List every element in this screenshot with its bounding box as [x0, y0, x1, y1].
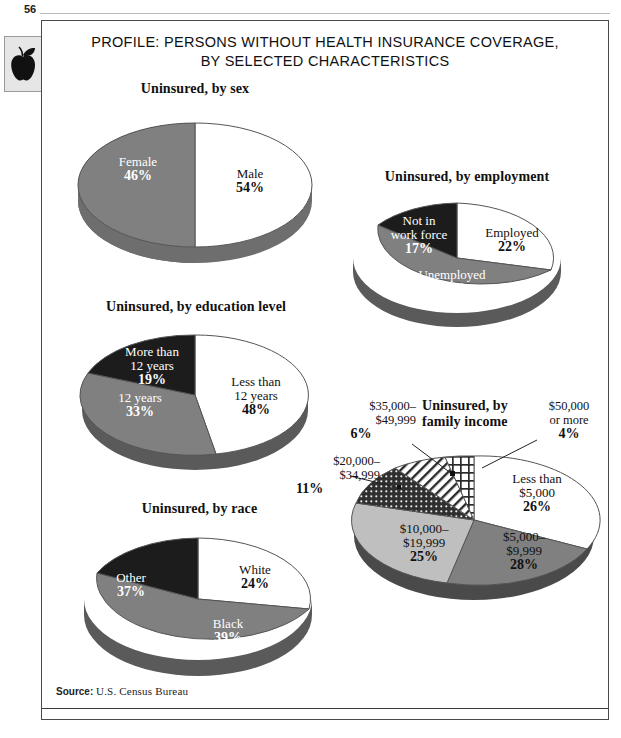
pie-race: White 24% Black 39% Other 37% [62, 525, 337, 680]
chart-title-sex: Uninsured, by sex [60, 81, 330, 97]
callout-50000-or-more: $50,000 or more 4% [528, 399, 610, 441]
chart-title-income-line-1: Uninsured, by [422, 398, 508, 414]
chart-title-income: Uninsured, by family income [422, 398, 508, 430]
pie-sex: Male 54% Female 46% [60, 105, 330, 255]
pie-employment: Employed 22% Unemployed 61% Not in work … [342, 192, 592, 327]
page-number: 56 [24, 3, 36, 15]
source-label: Source: [56, 686, 93, 697]
top-divider [40, 13, 610, 14]
chart-uninsured-by-sex: Uninsured, by sex Male 54% Female 46% [60, 81, 330, 255]
callout-35000-49999: $35,000– $49,999 6% [306, 399, 416, 441]
chart-uninsured-by-family-income: Uninsured, by family income [292, 396, 610, 621]
pie-income [340, 440, 608, 600]
chart-title-employment: Uninsured, by employment [342, 169, 592, 185]
page-title: PROFILE: PERSONS WITHOUT HEALTH INSURANC… [42, 33, 608, 71]
apple-icon [4, 36, 42, 92]
page-title-line-2: BY SELECTED CHARACTERISTICS [42, 52, 608, 71]
page-root: 56 PROFILE: PERSONS WITHOUT HEALTH INSUR… [0, 0, 621, 738]
chart-uninsured-by-race: Uninsured, by race White 24% Black 39% [62, 501, 337, 680]
chart-uninsured-by-employment: Uninsured, by employment Employed 22% Un… [342, 169, 592, 327]
chart-title-income-line-2: family income [422, 414, 508, 430]
source-value: U.S. Census Bureau [96, 685, 188, 697]
callout-20000-34999: $20,000– $34,999 11% [292, 454, 380, 496]
bottom-divider [42, 708, 608, 710]
source-note: Source: U.S. Census Bureau [56, 685, 188, 697]
chart-title-education: Uninsured, by education level [56, 299, 336, 315]
chart-title-race: Uninsured, by race [62, 501, 337, 517]
page-title-line-1: PROFILE: PERSONS WITHOUT HEALTH INSURANC… [42, 33, 608, 52]
figure-frame: PROFILE: PERSONS WITHOUT HEALTH INSURANC… [41, 20, 609, 720]
